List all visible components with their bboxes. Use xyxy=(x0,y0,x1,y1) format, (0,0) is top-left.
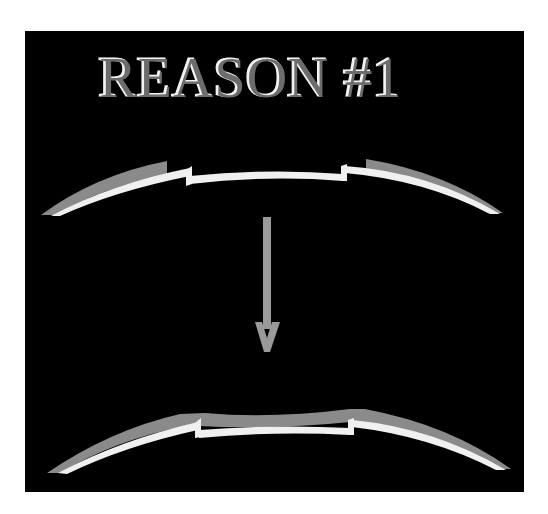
down-arrow-icon xyxy=(255,217,280,352)
top-white-band-center xyxy=(190,171,343,184)
top-left-grey-flank xyxy=(41,161,167,215)
bottom-curve-shape xyxy=(47,409,511,474)
top-curve-shape xyxy=(41,159,503,216)
bottom-white-band-center xyxy=(199,426,350,438)
title: REASON #1 REASON #1 xyxy=(97,46,402,109)
diagram-canvas: REASON #1 REASON #1 xyxy=(0,0,548,514)
bottom-white-band-left xyxy=(58,422,198,474)
title-text: REASON #1 xyxy=(99,47,402,109)
